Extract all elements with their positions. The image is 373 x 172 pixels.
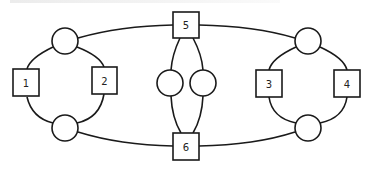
box-node-1: 1 bbox=[13, 69, 39, 96]
circle-node-mid-left bbox=[157, 70, 183, 96]
box-node-5: 5 bbox=[173, 12, 199, 38]
edge-2-lb bbox=[77, 94, 104, 123]
box-label-2: 2 bbox=[101, 76, 107, 87]
box-node-4: 4 bbox=[334, 70, 360, 97]
edge-lb-6 bbox=[78, 132, 173, 146]
edge-5-mr bbox=[193, 38, 203, 70]
edge-5-ml bbox=[171, 38, 180, 70]
loop-graph-diagram: 1 2 3 4 5 6 bbox=[0, 0, 373, 172]
edge-rt-3 bbox=[269, 47, 296, 70]
box-node-3: 3 bbox=[256, 70, 282, 97]
edge-6-rb bbox=[199, 132, 295, 146]
box-label-6: 6 bbox=[183, 142, 189, 153]
circle-node-right-top bbox=[295, 28, 321, 54]
edge-lt-2 bbox=[77, 47, 104, 67]
circle-node-left-bottom bbox=[52, 115, 78, 141]
box-label-3: 3 bbox=[266, 79, 272, 90]
circle-node-left-top bbox=[52, 28, 78, 54]
box-label-4: 4 bbox=[344, 79, 350, 90]
edge-ml-6 bbox=[171, 96, 181, 133]
edge-5-rt bbox=[199, 25, 295, 38]
edge-lt-5 bbox=[78, 25, 173, 38]
box-node-2: 2 bbox=[92, 67, 117, 94]
edge-4-rb bbox=[320, 97, 347, 123]
edge-rt-4 bbox=[320, 47, 347, 70]
box-label-5: 5 bbox=[183, 20, 189, 31]
edge-lt-1 bbox=[27, 47, 53, 69]
edge-3-rb bbox=[269, 97, 296, 123]
edge-1-lb bbox=[27, 97, 53, 123]
circle-node-right-bottom bbox=[295, 115, 321, 141]
edge-mr-6 bbox=[193, 96, 203, 133]
circle-node-mid-right bbox=[190, 70, 216, 96]
box-label-1: 1 bbox=[23, 78, 29, 89]
box-node-6: 6 bbox=[173, 133, 199, 160]
